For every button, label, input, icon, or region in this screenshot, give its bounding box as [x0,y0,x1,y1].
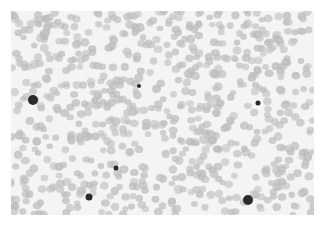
blood-cells-canvas [11,11,314,215]
stained-cell [86,194,93,201]
stained-cell [256,101,261,106]
stained-cell [114,166,119,171]
stained-cell [137,84,141,88]
stained-cell [28,95,38,105]
stained-cell [243,195,253,205]
blood-smear-image [11,11,314,215]
